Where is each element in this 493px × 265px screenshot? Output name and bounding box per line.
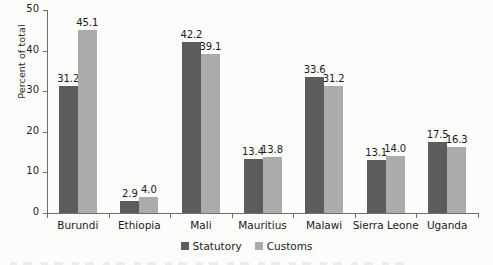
bar-statutory-mauritius xyxy=(244,159,263,213)
x-axis-separator xyxy=(232,213,233,218)
y-tick-label: 20 xyxy=(26,125,43,136)
bar-customs-uganda xyxy=(447,147,466,213)
chart-legend: StatutoryCustoms xyxy=(0,240,493,252)
x-axis-separator xyxy=(109,213,110,218)
bar-value-label: 2.9 xyxy=(122,188,138,199)
bar-value-label: 16.3 xyxy=(446,134,468,145)
x-axis-line xyxy=(47,213,478,214)
y-tick-label: 0 xyxy=(33,206,43,217)
category-label-mauritius: Mauritius xyxy=(238,219,287,231)
bar-statutory-uganda xyxy=(428,142,447,213)
category-label-mali: Mali xyxy=(190,219,211,231)
bar-statutory-malawi xyxy=(305,77,324,213)
bar-statutory-sierra-leone xyxy=(367,160,386,213)
bar-customs-sierra-leone xyxy=(386,156,405,213)
category-label-sierra-leone: Sierra Leone xyxy=(353,219,419,231)
legend-item-customs[interactable]: Customs xyxy=(255,240,313,252)
bar-value-label: 39.1 xyxy=(199,41,221,52)
bar-statutory-burundi xyxy=(59,86,78,213)
bar-statutory-mali xyxy=(182,42,201,213)
bar-chart: Percent of total 01020304050 31.245.12.9… xyxy=(0,0,493,265)
bar-value-label: 4.0 xyxy=(141,184,157,195)
bar-customs-malawi xyxy=(324,86,343,213)
legend-label: Statutory xyxy=(193,240,242,252)
bar-value-label: 31.2 xyxy=(57,73,79,84)
bar-value-label: 45.1 xyxy=(76,17,98,28)
x-axis-separator xyxy=(293,213,294,218)
bar-customs-mali xyxy=(201,54,220,213)
category-label-uganda: Uganda xyxy=(427,219,468,231)
legend-item-statutory[interactable]: Statutory xyxy=(181,240,242,252)
x-axis-separator xyxy=(170,213,171,218)
bar-statutory-ethiopia xyxy=(120,201,139,213)
bar-customs-ethiopia xyxy=(139,197,158,213)
category-label-malawi: Malawi xyxy=(306,219,342,231)
bar-customs-mauritius xyxy=(263,157,282,213)
x-axis-separator xyxy=(416,213,417,218)
bar-value-label: 31.2 xyxy=(323,73,345,84)
x-axis-end-tick xyxy=(47,213,48,218)
bar-customs-burundi xyxy=(78,30,97,213)
legend-label: Customs xyxy=(267,240,313,252)
bar-value-label: 14.0 xyxy=(384,143,406,154)
y-tick-label: 10 xyxy=(26,165,43,176)
category-label-burundi: Burundi xyxy=(57,219,98,231)
customs-swatch xyxy=(255,242,263,250)
y-axis-title: Percent of total xyxy=(16,0,27,127)
y-tick-label: 40 xyxy=(26,44,43,55)
plot-area: 31.245.12.94.042.239.113.413.833.631.213… xyxy=(47,10,478,213)
y-tick-label: 50 xyxy=(26,3,43,14)
bar-value-label: 13.8 xyxy=(261,144,283,155)
y-tick-label: 30 xyxy=(26,84,43,95)
x-axis-end-tick xyxy=(478,213,479,218)
category-label-ethiopia: Ethiopia xyxy=(118,219,161,231)
x-axis-separator xyxy=(355,213,356,218)
bar-value-label: 42.2 xyxy=(180,29,202,40)
statutory-swatch xyxy=(181,242,189,250)
